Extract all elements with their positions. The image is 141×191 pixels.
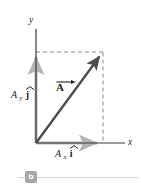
x-component-symbol: A [55, 148, 61, 159]
j-hat-unit-vector: j [26, 90, 29, 100]
panel-label-badge: b [25, 171, 37, 183]
vector-a [36, 57, 100, 144]
i-hat-letter: i [70, 148, 73, 159]
circumflex-accent-icon [25, 86, 35, 90]
y-axis-label: y [29, 16, 33, 26]
y-component-subscript: y [20, 94, 23, 101]
vector-components-figure: y x A A y j A x i [0, 0, 141, 191]
x-axis-label: x [128, 138, 132, 148]
x-component-subscript: x [64, 153, 67, 160]
y-component-label: A y j [11, 90, 29, 102]
y-component-symbol: A [11, 89, 17, 100]
vector-a-label: A [56, 82, 64, 93]
circumflex-accent-icon [69, 145, 79, 149]
i-hat-unit-vector: i [70, 149, 73, 159]
x-component-label: A x i [55, 149, 72, 161]
j-hat-letter: j [26, 89, 29, 100]
right-arrow-accent-icon [56, 79, 76, 84]
vector-a-shaft [36, 57, 100, 144]
vector-a-label-stack: A [56, 82, 64, 93]
